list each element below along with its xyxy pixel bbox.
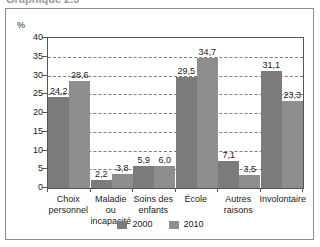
bar-value-label: 6,0 [158,156,171,165]
bar-value-label: 24,2 [50,87,68,96]
bar-group: 2,23,8 [91,38,134,188]
bar-group: 7,13,5 [218,38,261,188]
y-axis-tick-label: 0 [17,183,43,192]
bar[interactable]: 2,2 [91,180,112,188]
x-axis-category-label-line: École [175,194,218,205]
legend-label: 2000 [132,220,152,229]
x-axis-tick-mark [175,188,176,192]
bar-value-label: 3,8 [116,164,129,173]
x-axis-category-label: Choixpersonnel [47,194,90,216]
bar-group: 29,534,7 [176,38,219,188]
bar-group: 5,96,0 [133,38,176,188]
x-axis-category-label-line: Autres [217,194,260,205]
x-axis-category-label-line: Soins des [132,194,175,205]
x-axis-category-label-line: Choix [47,194,90,205]
x-axis-category-label-line: Involontaire [260,194,303,205]
chart-canvas: % 0510152025303540 24,228,62,23,85,96,02… [6,9,315,241]
bar[interactable]: 34,7 [197,58,218,188]
bar-value-label: 7,1 [222,151,235,160]
x-axis-category-label-line: Maladie ou [90,194,133,216]
bar[interactable]: 24,2 [48,97,69,188]
bar[interactable]: 23,3 [282,101,303,188]
cut-off-title-text: Graphique 2.3 [6,0,126,5]
y-axis-tick-label: 5 [17,164,43,173]
y-axis-tick-label: 20 [17,108,43,117]
bar-value-label: 28,6 [71,71,89,80]
x-axis-category-label: Involontaire [260,194,303,205]
x-axis-category-label-line: raisons [217,205,260,216]
x-axis-category-label: Soins desenfants [132,194,175,216]
x-axis-tick-mark [132,188,133,192]
chart-figure-frame: % 0510152025303540 24,228,62,23,85,96,02… [5,8,314,240]
bars: 2,23,8 [91,38,134,188]
bar[interactable]: 31,1 [261,71,282,188]
bar[interactable]: 3,8 [112,174,133,188]
x-axis-tick-mark [302,188,303,192]
bar-value-label: 31,1 [262,61,280,70]
y-axis-tick-label: 15 [17,127,43,136]
bars: 24,228,6 [48,38,91,188]
bars: 7,13,5 [218,38,261,188]
bar[interactable]: 5,9 [133,166,154,188]
x-axis-tick-mark [90,188,91,192]
y-axis-tick-label: 30 [17,71,43,80]
bar-value-label: 3,5 [243,165,256,174]
y-axis-unit-label: % [17,21,25,30]
legend-swatch-icon [117,221,127,229]
cut-off-title: Graphique 2.3 [6,0,126,6]
bar[interactable]: 29,5 [176,77,197,188]
x-axis-category-label-line: enfants [132,205,175,216]
bar[interactable]: 3,5 [239,175,260,188]
x-axis-category-label-line: personnel [47,205,90,216]
legend: 20002010 [6,220,315,229]
x-axis-tick-mark [260,188,261,192]
x-axis-tick-mark [217,188,218,192]
x-axis-category-label: École [175,194,218,205]
bar-value-label: 5,9 [137,156,150,165]
y-axis-tick-label: 40 [17,33,43,42]
bar[interactable]: 28,6 [69,81,90,188]
x-axis-category-label: Autresraisons [217,194,260,216]
bar-group: 24,228,6 [48,38,91,188]
legend-item[interactable]: 2000 [117,220,152,229]
bar[interactable]: 7,1 [218,161,239,188]
bars: 29,534,7 [176,38,219,188]
bar-value-label: 29,5 [177,67,195,76]
bars: 31,123,3 [261,38,304,188]
bar-group: 31,123,3 [261,38,304,188]
legend-swatch-icon [169,221,179,229]
bar-value-label: 23,3 [283,91,301,100]
bar[interactable]: 6,0 [154,166,175,189]
bar-value-label: 2,2 [95,170,108,179]
x-axis-tick-mark [47,188,48,192]
bar-value-label: 34,7 [198,48,216,57]
legend-item[interactable]: 2010 [169,220,204,229]
y-axis-tick-label: 25 [17,89,43,98]
bars: 5,96,0 [133,38,176,188]
legend-label: 2010 [184,220,204,229]
y-axis-tick-label: 35 [17,52,43,61]
plot-area: 24,228,62,23,85,96,029,534,77,13,531,123… [47,37,304,189]
y-axis-tick-label: 10 [17,146,43,155]
